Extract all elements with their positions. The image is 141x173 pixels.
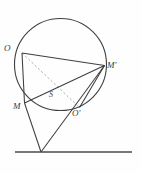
main-circle [15, 19, 107, 111]
chord-o-m [22, 53, 25, 103]
point-label-M: M [12, 101, 21, 111]
point-label-O: O [4, 43, 11, 53]
line-v-m [25, 103, 42, 152]
point-label-Mprime: M' [106, 60, 117, 70]
geometry-figure-svg: O M' M O' S [0, 0, 141, 173]
point-label-S: S [49, 90, 53, 99]
point-label-Oprime: O' [72, 108, 81, 118]
chord-o-mprime [22, 53, 105, 66]
geometry-figure-canvas: O M' M O' S [0, 0, 141, 173]
